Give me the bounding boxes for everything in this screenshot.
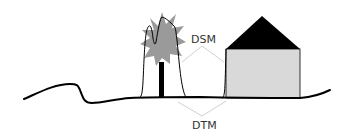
dsm-leader-lines [182,46,224,62]
house-roof [226,16,300,49]
house-wall [226,49,300,98]
dsm-house-outline [222,49,226,98]
dsm-label: DSM [191,33,216,46]
dtm-label: DTM [192,119,217,132]
dsm-dtm-diagram: DSM DTM [0,0,352,139]
tree-trunk [159,62,164,98]
dtm-leader-lines [178,101,226,116]
